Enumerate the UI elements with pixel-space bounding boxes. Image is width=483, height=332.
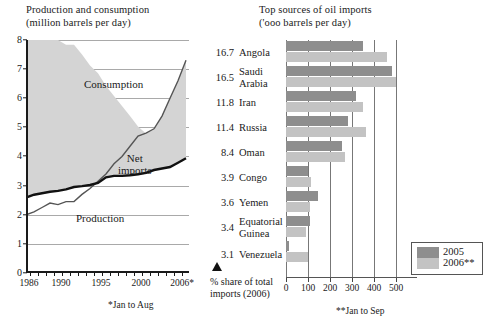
category-row-saudi-arabia: 16.5 Saudi Arabia bbox=[210, 67, 284, 88]
y-tick-mark-3 bbox=[23, 185, 27, 186]
bar-x-label-100: 100 bbox=[301, 283, 315, 293]
share-value: 3.9 bbox=[210, 172, 234, 184]
y-tick-label-6: 6 bbox=[17, 93, 22, 103]
left-series-svg bbox=[26, 40, 189, 273]
category-name: Equatorial Guinea bbox=[239, 216, 284, 239]
y-tick-label-0: 0 bbox=[17, 268, 22, 278]
bar-2006 bbox=[286, 102, 363, 112]
category-row-iran: 11.8 Iran bbox=[210, 92, 284, 113]
category-row-congo: 3.9 Congo bbox=[210, 167, 284, 188]
bars-plot-area: 0 100 200 300 400 500 2005 2006** bbox=[286, 40, 417, 278]
production-label: Production bbox=[76, 212, 124, 224]
x-tick-minor bbox=[118, 273, 119, 277]
y-tick-mark-4 bbox=[23, 155, 27, 156]
bar-2006 bbox=[286, 152, 345, 162]
share-value: 3.4 bbox=[210, 222, 234, 234]
bar-x-label-400: 400 bbox=[367, 283, 381, 293]
y-tick-label-8: 8 bbox=[17, 35, 22, 45]
x-tick-minor bbox=[166, 273, 167, 277]
bar-2005 bbox=[286, 191, 318, 201]
net-imports-label: Net imports bbox=[118, 152, 152, 176]
category-name: Venezuela bbox=[239, 249, 282, 261]
y-tick-mark-1 bbox=[23, 243, 27, 244]
x-tick-minor bbox=[54, 273, 55, 277]
x-axis-line bbox=[26, 271, 189, 273]
category-row-angola: 16.7 Angola bbox=[210, 42, 284, 63]
left-footnote: *Jan to Aug bbox=[108, 300, 153, 311]
legend-label-2005: 2005 bbox=[443, 246, 464, 258]
x-tick-minor bbox=[94, 273, 95, 277]
bar-2005 bbox=[286, 241, 289, 251]
x-tick-minor bbox=[174, 273, 175, 277]
bar-2005 bbox=[286, 116, 348, 126]
bar-2006 bbox=[286, 177, 311, 187]
x-tick-label-1986: 1986 bbox=[20, 278, 39, 288]
y-tick-label-3: 3 bbox=[17, 181, 22, 191]
category-name: Iran bbox=[239, 97, 256, 109]
category-name: Angola bbox=[239, 47, 270, 59]
bar-2005 bbox=[286, 141, 342, 151]
bar-x-tick-100 bbox=[308, 278, 309, 282]
bar-x-tick-200 bbox=[330, 278, 331, 282]
legend-swatch-2006 bbox=[417, 258, 439, 269]
left-chart-title: Production and consumption (million barr… bbox=[26, 4, 206, 29]
share-caption: % share of total imports (2006) bbox=[210, 276, 296, 299]
x-tick-minor bbox=[62, 273, 63, 277]
right-footnote: **Jan to Sep bbox=[336, 306, 385, 317]
legend-label-2006: 2006** bbox=[443, 257, 475, 269]
bar-2006 bbox=[286, 127, 366, 137]
bar-x-label-200: 200 bbox=[323, 283, 337, 293]
category-row-russia: 11.4 Russia bbox=[210, 117, 284, 138]
legend: 2005 2006** bbox=[411, 242, 483, 275]
category-row-equatorial-guinea: 3.4 Equatorial Guinea bbox=[210, 217, 284, 238]
x-tick-minor bbox=[78, 273, 79, 277]
y-tick-label-1: 1 bbox=[17, 239, 22, 249]
y-tick-label-2: 2 bbox=[17, 210, 22, 220]
y-tick-mark-6 bbox=[23, 97, 27, 98]
share-value: 16.7 bbox=[210, 47, 234, 59]
share-value: 3.1 bbox=[210, 249, 234, 261]
x-tick-minor bbox=[46, 273, 47, 277]
bar-2006 bbox=[286, 227, 306, 237]
x-tick-minor bbox=[142, 273, 143, 277]
x-tick-minor bbox=[30, 273, 31, 277]
bar-2006 bbox=[286, 52, 387, 62]
x-tick-minor bbox=[70, 273, 71, 277]
bar-2005 bbox=[286, 216, 310, 226]
x-tick-minor bbox=[182, 273, 183, 277]
category-name: Russia bbox=[239, 122, 267, 134]
y-tick-label-4: 4 bbox=[17, 151, 22, 161]
y-tick-mark-5 bbox=[23, 126, 27, 127]
x-tick-minor bbox=[134, 273, 135, 277]
bar-2005 bbox=[286, 166, 308, 176]
bar-x-tick-400 bbox=[374, 278, 375, 282]
x-tick-label-1995: 1995 bbox=[92, 278, 111, 288]
x-tick-minor bbox=[102, 273, 103, 277]
category-name: Congo bbox=[239, 172, 267, 184]
bar-2006 bbox=[286, 252, 308, 262]
category-name: Oman bbox=[239, 147, 265, 159]
left-plot-area: Consumption Net imports Production 8 7 6… bbox=[26, 40, 189, 273]
x-tick-minor bbox=[150, 273, 151, 277]
x-tick-minor bbox=[126, 273, 127, 277]
x-tick-minor bbox=[86, 273, 87, 277]
right-chart-title: Top sources of oil imports ('ooo barrels… bbox=[259, 4, 434, 29]
share-value: 11.8 bbox=[210, 97, 234, 109]
y-tick-mark-7 bbox=[23, 68, 27, 69]
bar-2006 bbox=[286, 202, 310, 212]
x-tick-label-2000: 2000 bbox=[132, 278, 151, 288]
x-tick-minor bbox=[158, 273, 159, 277]
bar-gridline-500 bbox=[396, 40, 397, 278]
share-value: 3.6 bbox=[210, 197, 234, 209]
bar-x-tick-500 bbox=[396, 278, 397, 282]
x-tick-label-1990: 1990 bbox=[52, 278, 71, 288]
bar-x-label-300: 300 bbox=[345, 283, 359, 293]
x-tick-label-2006: 2006* bbox=[170, 278, 194, 288]
consumption-label: Consumption bbox=[84, 78, 143, 90]
category-row-yemen: 3.6 Yemen bbox=[210, 192, 284, 213]
share-value: 16.5 bbox=[210, 72, 234, 84]
share-value: 8.4 bbox=[210, 147, 234, 159]
triangle-marker-icon bbox=[212, 262, 222, 271]
y-tick-label-5: 5 bbox=[17, 122, 22, 132]
oil-imports-sources-chart: Top sources of oil imports ('ooo barrels… bbox=[210, 0, 417, 332]
